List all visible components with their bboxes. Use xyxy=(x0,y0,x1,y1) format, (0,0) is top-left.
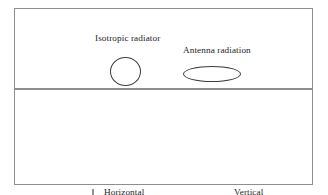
radiation-pattern-figure: Isotropic radiator Antenna radiation Hor… xyxy=(0,0,328,195)
down-arrow-icon xyxy=(85,189,101,195)
isotropic-pattern-circle-shape xyxy=(110,57,141,86)
label-vertical: Vertical xyxy=(234,187,263,195)
antenna-pattern-ellipse-shape xyxy=(183,66,241,82)
label-isotropic-radiator: Isotropic radiator xyxy=(95,33,160,44)
label-antenna-radiation: Antenna radiation xyxy=(183,45,251,56)
label-horizontal: Horizontal xyxy=(104,187,144,195)
panel-horizontal-vs-vertical: Horizontal Vertical xyxy=(14,89,313,185)
panel-isotropic-vs-antenna: Isotropic radiator Antenna radiation xyxy=(14,8,313,89)
